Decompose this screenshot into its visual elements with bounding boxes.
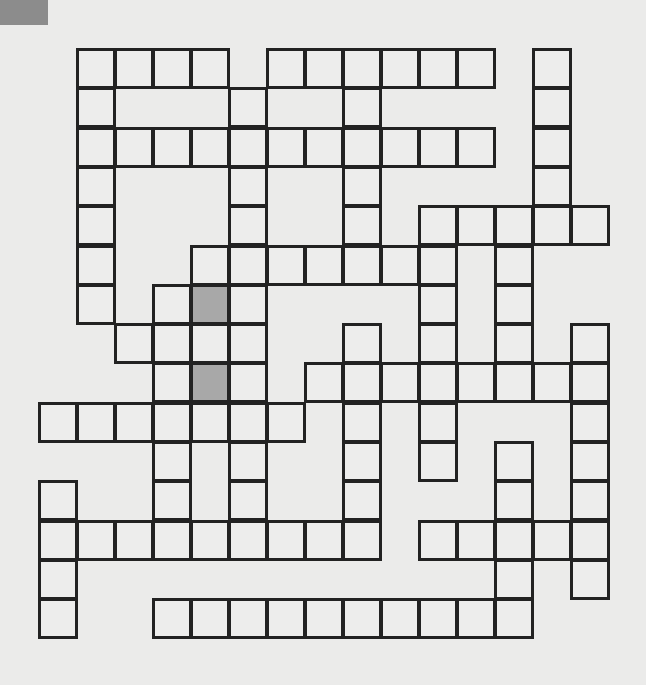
grid-cell[interactable] bbox=[380, 48, 420, 89]
grid-cell[interactable] bbox=[228, 362, 268, 403]
grid-cell[interactable] bbox=[342, 245, 382, 286]
grid-cell[interactable] bbox=[76, 245, 116, 286]
grid-cell[interactable] bbox=[228, 598, 268, 639]
grid-cell[interactable] bbox=[38, 559, 78, 600]
grid-cell[interactable] bbox=[456, 520, 496, 561]
grid-cell[interactable] bbox=[114, 402, 154, 443]
grid-cell[interactable] bbox=[266, 127, 306, 168]
grid-cell[interactable] bbox=[418, 598, 458, 639]
grid-cell[interactable] bbox=[532, 520, 572, 561]
grid-cell[interactable] bbox=[418, 402, 458, 443]
grid-cell[interactable] bbox=[304, 127, 344, 168]
grid-cell[interactable] bbox=[532, 87, 572, 128]
grid-cell[interactable] bbox=[228, 127, 268, 168]
grid-cell[interactable] bbox=[190, 245, 230, 286]
grid-cell[interactable] bbox=[228, 402, 268, 443]
grid-cell[interactable] bbox=[190, 127, 230, 168]
grid-cell[interactable] bbox=[228, 166, 268, 207]
grid-cell[interactable] bbox=[228, 480, 268, 521]
grid-cell[interactable] bbox=[418, 245, 458, 286]
grid-cell[interactable] bbox=[76, 402, 116, 443]
grid-cell[interactable] bbox=[342, 441, 382, 482]
grid-cell[interactable] bbox=[304, 362, 344, 403]
grid-cell[interactable] bbox=[190, 323, 230, 364]
grid-cell[interactable] bbox=[304, 245, 344, 286]
grid-cell[interactable] bbox=[494, 323, 534, 364]
grid-cell[interactable] bbox=[532, 205, 572, 246]
grid-cell[interactable] bbox=[342, 598, 382, 639]
shaded-grid-cell[interactable] bbox=[190, 284, 230, 325]
grid-cell[interactable] bbox=[342, 480, 382, 521]
grid-cell[interactable] bbox=[380, 127, 420, 168]
grid-cell[interactable] bbox=[304, 48, 344, 89]
grid-cell[interactable] bbox=[190, 48, 230, 89]
grid-cell[interactable] bbox=[342, 362, 382, 403]
grid-cell[interactable] bbox=[570, 480, 610, 521]
grid-cell[interactable] bbox=[152, 480, 192, 521]
grid-cell[interactable] bbox=[266, 245, 306, 286]
grid-cell[interactable] bbox=[456, 127, 496, 168]
grid-cell[interactable] bbox=[418, 441, 458, 482]
grid-cell[interactable] bbox=[114, 323, 154, 364]
grid-cell[interactable] bbox=[76, 127, 116, 168]
shaded-grid-cell[interactable] bbox=[190, 362, 230, 403]
grid-cell[interactable] bbox=[228, 441, 268, 482]
grid-cell[interactable] bbox=[38, 598, 78, 639]
grid-cell[interactable] bbox=[342, 402, 382, 443]
grid-cell[interactable] bbox=[266, 48, 306, 89]
grid-cell[interactable] bbox=[76, 87, 116, 128]
grid-cell[interactable] bbox=[418, 48, 458, 89]
grid-cell[interactable] bbox=[152, 284, 192, 325]
grid-cell[interactable] bbox=[494, 598, 534, 639]
grid-cell[interactable] bbox=[532, 166, 572, 207]
grid-cell[interactable] bbox=[76, 166, 116, 207]
grid-cell[interactable] bbox=[152, 48, 192, 89]
grid-cell[interactable] bbox=[266, 520, 306, 561]
grid-cell[interactable] bbox=[570, 559, 610, 600]
grid-cell[interactable] bbox=[152, 323, 192, 364]
grid-cell[interactable] bbox=[418, 362, 458, 403]
grid-cell[interactable] bbox=[456, 598, 496, 639]
grid-cell[interactable] bbox=[418, 323, 458, 364]
grid-cell[interactable] bbox=[342, 205, 382, 246]
grid-cell[interactable] bbox=[190, 520, 230, 561]
grid-cell[interactable] bbox=[456, 205, 496, 246]
grid-cell[interactable] bbox=[228, 520, 268, 561]
grid-cell[interactable] bbox=[494, 441, 534, 482]
grid-cell[interactable] bbox=[228, 323, 268, 364]
grid-cell[interactable] bbox=[494, 480, 534, 521]
grid-cell[interactable] bbox=[114, 48, 154, 89]
grid-cell[interactable] bbox=[76, 205, 116, 246]
grid-cell[interactable] bbox=[532, 48, 572, 89]
grid-cell[interactable] bbox=[152, 127, 192, 168]
grid-cell[interactable] bbox=[418, 284, 458, 325]
grid-cell[interactable] bbox=[228, 245, 268, 286]
grid-cell[interactable] bbox=[114, 520, 154, 561]
grid-cell[interactable] bbox=[494, 520, 534, 561]
grid-cell[interactable] bbox=[152, 441, 192, 482]
grid-cell[interactable] bbox=[494, 205, 534, 246]
grid-cell[interactable] bbox=[342, 323, 382, 364]
grid-cell[interactable] bbox=[418, 205, 458, 246]
grid-cell[interactable] bbox=[342, 48, 382, 89]
grid-cell[interactable] bbox=[532, 362, 572, 403]
grid-cell[interactable] bbox=[456, 362, 496, 403]
grid-cell[interactable] bbox=[570, 520, 610, 561]
grid-cell[interactable] bbox=[380, 245, 420, 286]
grid-cell[interactable] bbox=[494, 559, 534, 600]
grid-cell[interactable] bbox=[266, 598, 306, 639]
grid-cell[interactable] bbox=[380, 362, 420, 403]
grid-cell[interactable] bbox=[570, 441, 610, 482]
grid-cell[interactable] bbox=[76, 48, 116, 89]
grid-cell[interactable] bbox=[228, 205, 268, 246]
grid-cell[interactable] bbox=[570, 362, 610, 403]
grid-cell[interactable] bbox=[494, 245, 534, 286]
grid-cell[interactable] bbox=[570, 205, 610, 246]
grid-cell[interactable] bbox=[152, 402, 192, 443]
grid-cell[interactable] bbox=[152, 598, 192, 639]
grid-cell[interactable] bbox=[152, 520, 192, 561]
grid-cell[interactable] bbox=[570, 402, 610, 443]
grid-cell[interactable] bbox=[266, 402, 306, 443]
grid-cell[interactable] bbox=[304, 598, 344, 639]
grid-cell[interactable] bbox=[342, 127, 382, 168]
